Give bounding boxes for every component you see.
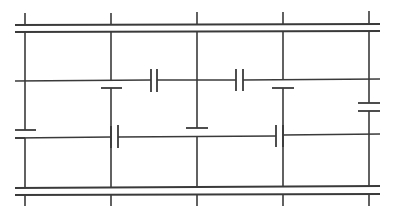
capacitor-col4-icon bbox=[272, 80, 294, 88]
row1-left bbox=[15, 80, 151, 81]
top-bus-upper bbox=[15, 24, 380, 25]
row1-right bbox=[243, 79, 380, 80]
capacitor-row2-a-icon bbox=[111, 125, 118, 148]
capacitor-col5-icon bbox=[358, 103, 380, 111]
capacitor-network-diagram bbox=[0, 0, 396, 218]
wires bbox=[15, 11, 380, 206]
capacitor-col1-icon bbox=[15, 130, 36, 138]
capacitor-col2-icon bbox=[101, 81, 122, 88]
capacitor-row2-b-icon bbox=[276, 125, 283, 147]
capacitor-col3-icon bbox=[186, 128, 208, 136]
row2-right bbox=[283, 134, 380, 135]
row2-mid bbox=[118, 136, 276, 137]
row2-left bbox=[15, 137, 111, 138]
capacitor-row1-a-icon bbox=[151, 69, 157, 92]
capacitor-row1-b-icon bbox=[236, 69, 243, 91]
